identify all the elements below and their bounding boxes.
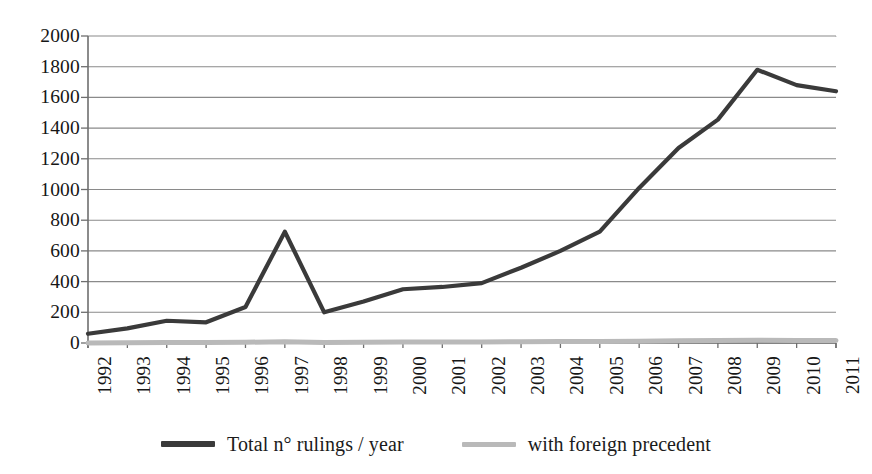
x-tick-label-2003: 2003 <box>528 356 547 418</box>
y-axis-tick-labels: 0200400600800100012001400160018002000 <box>14 0 80 348</box>
y-tick-label-1200: 1200 <box>14 149 80 169</box>
x-tick-label-2000: 2000 <box>410 356 429 418</box>
y-tick-label-1600: 1600 <box>14 87 80 107</box>
x-tick-label-2001: 2001 <box>449 356 468 418</box>
x-tick-label-2010: 2010 <box>804 356 823 418</box>
x-tick-label-2008: 2008 <box>725 356 744 418</box>
x-tick-label-2006: 2006 <box>646 356 665 418</box>
y-tick-label-1400: 1400 <box>14 118 80 138</box>
y-tick-label-400: 400 <box>14 272 80 292</box>
x-tick-label-2004: 2004 <box>567 356 586 418</box>
y-axis-ticks <box>81 36 88 343</box>
line-swatch-dark-icon <box>161 441 215 447</box>
x-tick-label-2007: 2007 <box>686 356 705 418</box>
x-tick-label-2005: 2005 <box>607 356 626 418</box>
y-tick-label-200: 200 <box>14 302 80 322</box>
data-series-layer <box>88 70 836 343</box>
chart-legend: Total n° rulings / year with foreign pre… <box>0 424 872 464</box>
x-tick-label-1995: 1995 <box>213 356 232 418</box>
plot-area: 0200400600800100012001400160018002000 <box>0 0 872 348</box>
x-tick-label-2002: 2002 <box>489 356 508 418</box>
y-tick-label-2000: 2000 <box>14 26 80 46</box>
series-line-total-rulings <box>88 70 836 334</box>
y-tick-label-1000: 1000 <box>14 180 80 200</box>
x-tick-label-1998: 1998 <box>331 356 350 418</box>
x-tick-label-1996: 1996 <box>252 356 271 418</box>
gridlines <box>88 36 836 343</box>
x-tick-label-2011: 2011 <box>843 356 862 418</box>
x-tick-label-1994: 1994 <box>174 356 193 418</box>
axis-lines <box>88 36 836 348</box>
legend-label: with foreign precedent <box>528 434 711 454</box>
y-tick-label-1800: 1800 <box>14 57 80 77</box>
y-tick-label-600: 600 <box>14 241 80 261</box>
series-line-foreign-precedent <box>88 340 836 343</box>
x-tick-label-2009: 2009 <box>764 356 783 418</box>
legend-label: Total n° rulings / year <box>227 434 404 454</box>
x-axis-tick-labels: 1992199319941995199619971998199920002001… <box>0 348 872 422</box>
plot-svg <box>0 0 872 348</box>
x-tick-label-1997: 1997 <box>292 356 311 418</box>
line-swatch-gray-icon <box>462 442 516 447</box>
x-tick-label-1992: 1992 <box>95 356 114 418</box>
line-chart-figure: 0200400600800100012001400160018002000 19… <box>0 0 872 474</box>
x-tick-label-1999: 1999 <box>371 356 390 418</box>
y-tick-label-800: 800 <box>14 210 80 230</box>
x-tick-label-1993: 1993 <box>134 356 153 418</box>
legend-item-foreign-precedent: with foreign precedent <box>462 434 711 454</box>
legend-item-total-rulings: Total n° rulings / year <box>161 434 404 454</box>
